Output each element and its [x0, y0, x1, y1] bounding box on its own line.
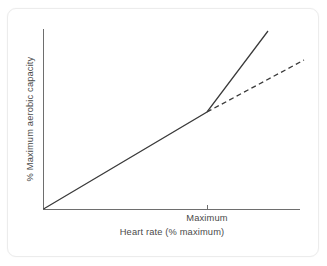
- aerobic-capacity-line-chart: Maximum Heart rate (% maximum) % Maximum…: [0, 0, 327, 266]
- series-extrapolated-linear-trend: [207, 60, 304, 112]
- x-axis-title: Heart rate (% maximum): [120, 227, 225, 237]
- series-measured-aerobic-capacity: [44, 31, 269, 209]
- x-tick-label-maximum: Maximum: [186, 213, 227, 223]
- chart-area: Maximum Heart rate (% maximum) % Maximum…: [0, 0, 327, 266]
- y-axis-title: % Maximum aerobic capacity: [25, 56, 35, 181]
